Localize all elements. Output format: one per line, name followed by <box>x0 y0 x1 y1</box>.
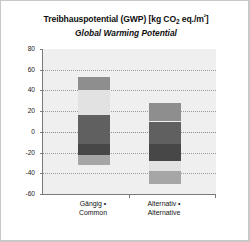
chart-figure: Treibhauspotential (GWP) [kg CO2 eq./m²]… <box>0 0 250 242</box>
y-tick-label-20: 20 <box>11 108 35 114</box>
y-tick-label--40: -40 <box>11 170 35 176</box>
chart-title: Treibhauspotential (GWP) [kg CO2 eq./m²] <box>1 11 250 27</box>
chart-subtitle: Global Warming Potential <box>1 28 250 39</box>
y-tick-label--20: -20 <box>11 150 35 156</box>
bar-1 <box>78 49 110 194</box>
y-tick-label-40: 40 <box>11 87 35 93</box>
x-tick-1 <box>129 194 130 198</box>
y-tick-mark-20 <box>40 111 43 112</box>
y-tick-label-60: 60 <box>11 67 35 73</box>
bar-2-segment-3 <box>149 122 181 145</box>
bar-1-segment-3 <box>78 115 110 144</box>
bar-1-segment-1 <box>78 77 110 90</box>
gridline-60 <box>43 70 216 71</box>
bar-1-segment-2 <box>78 90 110 115</box>
x-axis-label-1-line1: Gängig • <box>80 200 107 207</box>
bar-2-segment-5 <box>149 161 181 171</box>
y-tick-mark-40 <box>40 90 43 91</box>
chart-title-post: ] <box>206 14 209 24</box>
y-tick-label-80: 80 <box>11 46 35 52</box>
bar-2-segment-6 <box>149 171 181 183</box>
plot-area <box>42 49 216 195</box>
chart-title-mid: eq./m <box>180 14 204 24</box>
gridline-40 <box>43 90 216 91</box>
title-block: Treibhauspotential (GWP) [kg CO2 eq./m²]… <box>1 11 250 39</box>
x-axis-label-2: Alternativ •Alternative <box>116 200 212 217</box>
y-tick-mark-0 <box>40 132 43 133</box>
bar-1-segment-4 <box>78 144 110 154</box>
y-tick-mark-60 <box>40 70 43 71</box>
y-tick-mark--60 <box>40 194 43 195</box>
gridline-0 <box>43 132 216 133</box>
gridline--20 <box>43 153 216 154</box>
bar-1-segment-6 <box>78 155 110 165</box>
y-tick-mark--20 <box>40 153 43 154</box>
y-tick-mark-80 <box>40 49 43 50</box>
y-tick-label-0: 0 <box>11 129 35 135</box>
y-tick-mark--40 <box>40 173 43 174</box>
bar-2 <box>149 49 181 194</box>
x-tick-2 <box>215 194 216 198</box>
gridline-20 <box>43 111 216 112</box>
y-tick-label--60: -60 <box>11 191 35 197</box>
x-axis-label-2-line1: Alternativ • <box>147 200 180 207</box>
x-axis-label-2-line2: Alternative <box>116 209 212 218</box>
gridline--40 <box>43 173 216 174</box>
bar-2-segment-1 <box>149 103 181 122</box>
chart-title-pre: Treibhauspotential (GWP) [kg CO <box>44 14 177 24</box>
bar-2-segment-4 <box>149 144 181 161</box>
